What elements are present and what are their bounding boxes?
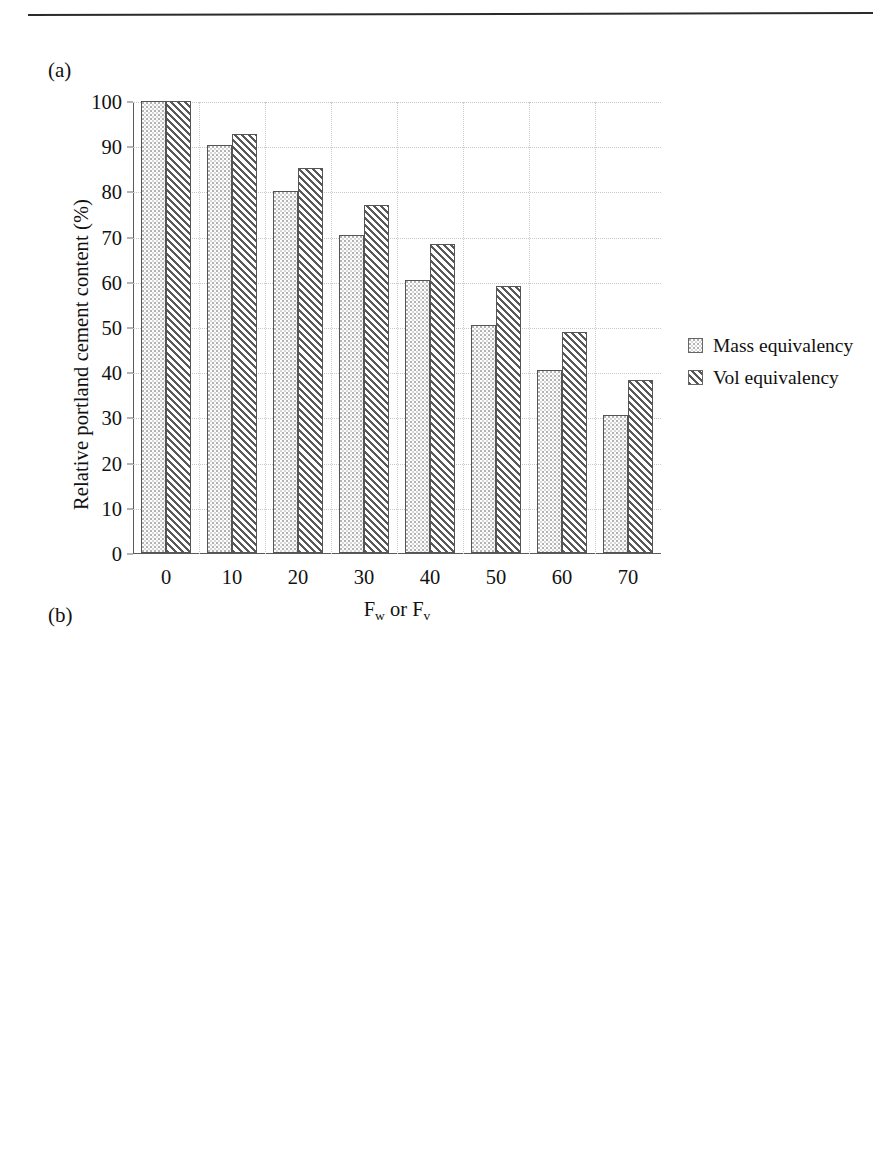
y-tick-mark [127, 237, 133, 238]
gridline-vertical [331, 102, 332, 554]
gridline-vertical [463, 102, 464, 554]
bar-mass-equivalency [141, 101, 166, 553]
panel-a-plot-area: 0102030405060708090100 010203040506070 F… [133, 102, 661, 554]
legend-label: Mass equivalency [713, 336, 853, 356]
panel-a-letter: (a) [48, 58, 71, 83]
y-tick-mark [127, 192, 133, 193]
bar-group [603, 101, 653, 553]
y-tick-mark [127, 554, 133, 555]
panel-a-y-axis-label: Relative portland cement content (%) [70, 199, 93, 510]
y-tick-mark [127, 147, 133, 148]
x-tick-label: 10 [222, 554, 243, 589]
x-tick-label: 30 [354, 554, 375, 589]
bar-vol-equivalency [628, 380, 653, 553]
x-tick-label: 50 [486, 554, 507, 589]
bar-vol-equivalency [232, 134, 257, 553]
chart-panel-b: (b) Relative mineral admixture content (… [0, 595, 892, 1165]
bar-vol-equivalency [298, 168, 323, 553]
gridline-vertical [529, 102, 530, 554]
bar-mass-equivalency [339, 235, 364, 553]
legend-item: Mass equivalency [688, 336, 853, 356]
bar-group [339, 101, 389, 553]
bar-vol-equivalency [430, 244, 455, 553]
x-tick-label: 40 [420, 554, 441, 589]
gridline-vertical [595, 102, 596, 554]
bar-group [471, 101, 521, 553]
chart-panel-a: (a) Relative portland cement content (%)… [0, 40, 892, 595]
bar-group [141, 101, 191, 553]
panel-a-legend: Mass equivalencyVol equivalency [688, 336, 853, 399]
gridline-vertical [397, 102, 398, 554]
gridline-vertical [199, 102, 200, 554]
panel-b-letter: (b) [48, 603, 73, 628]
y-tick-mark [127, 508, 133, 509]
bar-group [273, 101, 323, 553]
bar-group [207, 101, 257, 553]
legend-swatch-hatched-icon [688, 370, 703, 385]
gridline-vertical [265, 102, 266, 554]
bar-group [537, 101, 587, 553]
bar-vol-equivalency [562, 332, 587, 553]
bar-group [405, 101, 455, 553]
bar-mass-equivalency [471, 325, 496, 553]
bar-mass-equivalency [405, 280, 430, 553]
y-tick-mark [127, 102, 133, 103]
bar-vol-equivalency [364, 205, 389, 553]
x-tick-label: 70 [618, 554, 639, 589]
bar-vol-equivalency [166, 101, 191, 553]
x-tick-label: 20 [288, 554, 309, 589]
y-tick-mark [127, 463, 133, 464]
legend-label: Vol equivalency [713, 368, 839, 388]
legend-swatch-dotted-icon [688, 338, 703, 353]
header-rule [28, 12, 873, 16]
y-tick-mark [127, 328, 133, 329]
bar-mass-equivalency [273, 191, 298, 554]
y-tick-mark [127, 282, 133, 283]
x-tick-label: 60 [552, 554, 573, 589]
bar-mass-equivalency [537, 370, 562, 553]
x-tick-label: 0 [161, 554, 171, 589]
bar-mass-equivalency [207, 145, 232, 553]
legend-item: Vol equivalency [688, 368, 853, 388]
y-tick-mark [127, 418, 133, 419]
bar-mass-equivalency [603, 415, 628, 553]
bar-vol-equivalency [496, 286, 521, 553]
y-tick-mark [127, 373, 133, 374]
